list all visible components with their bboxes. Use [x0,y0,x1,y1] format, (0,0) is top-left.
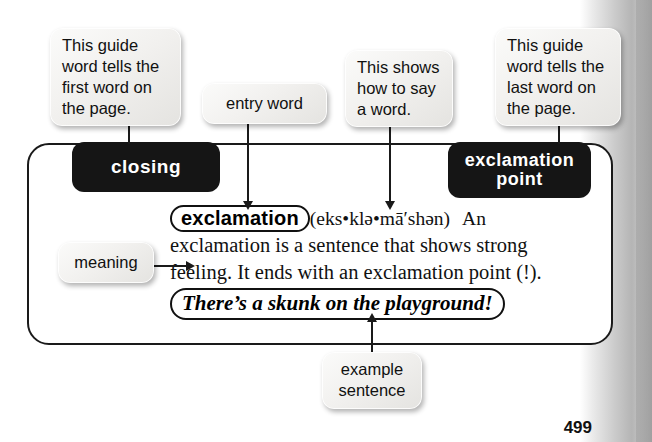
example-sentence-wrap: There’s a skunk on the playground! [170,286,600,320]
connector-entry-word [247,120,249,204]
callout-example-sentence: example sentence [322,352,422,409]
page-edge-strip [636,0,652,442]
arrowhead-meaning [186,261,195,271]
callout-meaning: meaning [58,242,154,283]
callout-entry-word: entry word [202,83,327,124]
guide-word-tab-left: closing [72,142,220,192]
definition-line-1: An [462,208,486,229]
pronunciation-text: (eks•klə•mā′shən) [310,208,450,229]
entry-content: exclamation(eks•klə•mā′shən)An exclamati… [170,205,600,320]
callout-guide-word-first: This guide word tells the first word on … [50,28,181,126]
arrowhead-example [367,313,377,322]
connector-example [371,320,373,352]
arrowhead-entry-word [243,201,253,210]
headword-pill: exclamation [170,205,310,232]
definition-line-3: feeling. It ends with an exclamation poi… [170,259,600,286]
page-number: 499 [564,418,592,438]
arrowhead-pronunciation [385,201,395,210]
definition-line-2: exclamation is a sentence that shows str… [170,232,600,259]
callout-pronunciation: This shows how to say a word. [345,50,453,127]
connector-meaning [154,265,188,267]
dictionary-diagram-page: closing exclamation point exclamation(ek… [0,0,652,442]
guide-word-tab-right: exclamation point [448,142,591,198]
example-sentence-pill: There’s a skunk on the playground! [170,288,505,320]
callout-guide-word-last: This guide word tells the last word on t… [495,28,621,126]
connector-pronunciation [389,122,391,204]
